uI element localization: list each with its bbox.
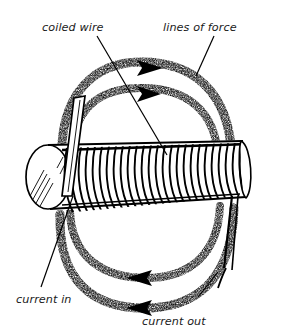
solenoid-field-diagram: coiled wire lines of force current in cu… xyxy=(0,0,282,336)
label-current-out: current out xyxy=(142,315,206,328)
label-current-in: current in xyxy=(16,293,72,306)
diagram-canvas: coiled wire lines of force current in cu… xyxy=(0,0,282,336)
label-coiled-wire: coiled wire xyxy=(42,21,104,34)
label-lines-of-force: lines of force xyxy=(163,21,237,34)
